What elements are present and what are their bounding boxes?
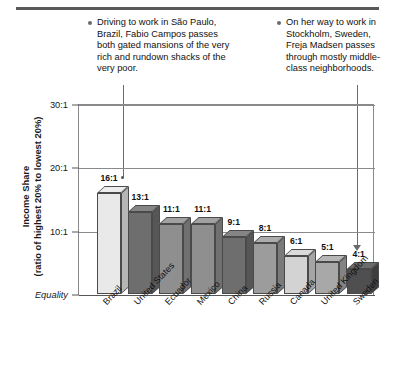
- y-axis-tickmark: [72, 295, 79, 296]
- callout-brazil: Driving to work in São Paulo, Brazil, Fa…: [88, 17, 238, 75]
- bar-value-label: 9:1: [228, 217, 240, 227]
- y-axis-tick-label: 20:1: [50, 163, 68, 173]
- y-axis-tickmark: [72, 168, 79, 169]
- y-axis-tickmark: [72, 231, 79, 232]
- bullet-dot-icon: [88, 21, 92, 25]
- chart-figure: Driving to work in São Paulo, Brazil, Fa…: [0, 0, 393, 381]
- bar-value-label: 11:1: [194, 204, 211, 214]
- bar-brazil: 16:1: [97, 193, 121, 294]
- top-divider-rule: [16, 7, 379, 10]
- bar-value-label: 13:1: [132, 192, 149, 202]
- y-axis-tick-label: Equality: [35, 290, 68, 300]
- y-axis-tickmark: [72, 105, 79, 106]
- y-axis-title-line2: (ratio of highest 20% to lowest 20%): [31, 117, 42, 277]
- plot-area: 30:120:110:1Equality 16:113:111:111:19:1…: [78, 104, 374, 295]
- y-axis-title: Income Share (ratio of highest 20% to lo…: [20, 112, 43, 282]
- bar-front-face: [97, 193, 121, 294]
- callout-sweden-text: On her way to work in Stockholm, Sweden,…: [286, 17, 389, 75]
- y-axis-tick-label: 10:1: [50, 227, 68, 237]
- bullet-dot-icon: [277, 21, 281, 25]
- y-axis-tick-label: 30:1: [50, 100, 68, 110]
- bar-value-label: 6:1: [290, 236, 302, 246]
- bar-series: 16:113:111:111:19:18:16:15:14:1: [79, 104, 375, 295]
- bar-value-label: 16:1: [100, 173, 117, 183]
- y-axis-title-line1: Income Share: [20, 166, 31, 227]
- bar-value-label: 8:1: [259, 223, 271, 233]
- bar-value-label: 11:1: [163, 204, 180, 214]
- bar-value-label: 5:1: [321, 242, 333, 252]
- callout-brazil-text: Driving to work in São Paulo, Brazil, Fa…: [97, 17, 238, 75]
- callout-sweden: On her way to work in Stockholm, Sweden,…: [277, 17, 389, 75]
